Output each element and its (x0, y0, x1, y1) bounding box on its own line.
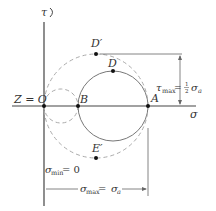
sigma-max-arrow (142, 187, 147, 191)
sigma-min-annotation: σ min = 0 (45, 164, 80, 177)
tau-axis-label: τ (41, 6, 48, 19)
rotation-arrow-icon (50, 8, 53, 17)
point-a (146, 104, 150, 108)
svg-text:=: = (98, 183, 106, 194)
point-e-prime (94, 156, 98, 160)
svg-text:1: 1 (185, 81, 189, 87)
tau-max-arrow-bottom (178, 100, 182, 105)
svg-text:=: = (174, 83, 182, 93)
svg-text:a: a (198, 87, 202, 95)
d-prime-label: D′ (90, 37, 103, 50)
svg-text:= 0: = 0 (62, 164, 80, 175)
b-label: B (79, 93, 88, 106)
e-prime-label: E′ (91, 142, 103, 155)
tau-max-annotation: τ max = 1 2 σ a (156, 81, 202, 95)
a-label: A (150, 92, 159, 105)
d-label: D (107, 57, 117, 70)
mohr-circle-diagram: τ σ Z = O B A D D′ E′ τ max = 1 2 σ a σ … (0, 0, 216, 211)
point-d-prime (94, 52, 98, 56)
svg-text:2: 2 (185, 88, 189, 94)
sigma-axis-label: σ (190, 108, 198, 121)
svg-text:a: a (117, 188, 121, 196)
sigma-max-annotation: σ max = σ a (80, 183, 121, 196)
tau-max-arrow-top (178, 55, 182, 60)
origin-label: Z = O (13, 93, 47, 106)
